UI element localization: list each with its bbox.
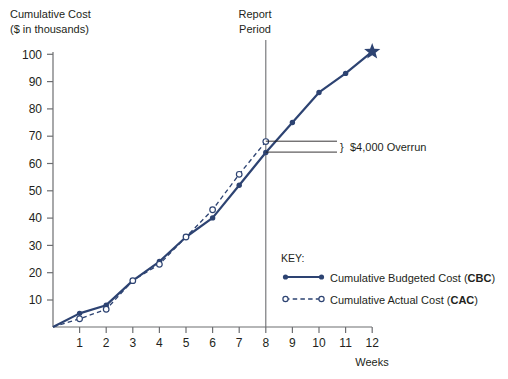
x-tick-10: 10: [312, 336, 326, 350]
overrun-annotation: } $4,000 Overrun: [266, 141, 427, 153]
legend-label-cac-tail: ): [474, 294, 478, 306]
data-point: [183, 234, 189, 240]
x-axis-tick-labels: 1 2 3 4 5 6 7 8 9 10 11 12: [76, 336, 379, 350]
x-axis-name: Weeks: [355, 356, 389, 368]
legend-label-cbc-abbr: CBC: [468, 272, 492, 284]
series-cac: [53, 139, 269, 327]
y-tick-90: 90: [29, 75, 43, 89]
legend: KEY: Cumulative Budgeted Cost (CBC) Cumu…: [281, 252, 495, 306]
series-layer: [53, 43, 380, 327]
legend-marker-cac-end: [319, 296, 324, 301]
x-tick-11: 11: [339, 336, 352, 350]
y-tick-60: 60: [29, 157, 43, 171]
y-axis-title-line2: ($ in thousands): [10, 23, 89, 35]
y-tick-50: 50: [29, 184, 43, 198]
data-point: [77, 316, 83, 322]
x-axis-ticks: [80, 327, 373, 333]
data-point: [237, 183, 242, 188]
legend-marker-cac-start: [283, 296, 288, 301]
x-tick-3: 3: [129, 336, 136, 350]
series-line-cbc: [53, 52, 372, 327]
y-tick-10: 10: [29, 293, 43, 307]
x-tick-6: 6: [209, 336, 216, 350]
legend-title: KEY:: [281, 252, 304, 264]
y-tick-20: 20: [29, 266, 43, 280]
x-tick-9: 9: [289, 336, 296, 350]
data-point: [157, 261, 163, 267]
y-tick-70: 70: [29, 129, 43, 143]
report-period-label-line2: Period: [239, 23, 271, 35]
y-tick-40: 40: [29, 211, 43, 225]
x-tick-2: 2: [103, 336, 110, 350]
legend-label-cac: Cumulative Actual Cost (CAC): [330, 294, 478, 306]
overrun-brace: }: [340, 141, 344, 153]
overrun-label: $4,000 Overrun: [350, 141, 426, 153]
data-point: [210, 215, 215, 220]
data-point: [236, 171, 242, 177]
series-cbc: [53, 43, 380, 327]
data-point: [130, 278, 136, 284]
y-axis-title-line1: Cumulative Cost: [10, 8, 91, 20]
x-tick-4: 4: [156, 336, 163, 350]
data-point: [316, 90, 321, 95]
data-point: [77, 311, 82, 316]
data-point: [103, 306, 109, 312]
legend-item-cbc[interactable]: Cumulative Budgeted Cost (CBC): [283, 272, 495, 284]
x-tick-7: 7: [236, 336, 243, 350]
legend-marker-cbc-end: [319, 274, 324, 279]
legend-label-cac-text: Cumulative Actual Cost (: [330, 294, 451, 306]
legend-label-cbc-text: Cumulative Budgeted Cost (: [330, 272, 468, 284]
y-tick-80: 80: [29, 102, 43, 116]
legend-label-cbc-tail: ): [491, 272, 495, 284]
series-line-cac: [53, 142, 266, 327]
legend-item-cac[interactable]: Cumulative Actual Cost (CAC): [283, 294, 478, 306]
x-tick-8: 8: [262, 336, 269, 350]
data-point: [290, 120, 295, 125]
x-tick-12: 12: [366, 336, 380, 350]
y-tick-100: 100: [22, 48, 42, 62]
legend-label-cac-abbr: CAC: [450, 294, 474, 306]
legend-marker-cbc-start: [283, 274, 288, 279]
y-tick-30: 30: [29, 239, 43, 253]
y-axis-ticks: [47, 54, 53, 300]
report-period-label-line1: Report: [238, 8, 271, 20]
x-tick-1: 1: [76, 336, 83, 350]
y-axis-tick-labels: 100 90 80 70 60 50 40 30 20 10: [22, 48, 42, 308]
legend-label-cbc: Cumulative Budgeted Cost (CBC): [330, 272, 495, 284]
cumulative-cost-chart: Cumulative Cost ($ in thousands) Report …: [0, 0, 508, 379]
chart-svg: Cumulative Cost ($ in thousands) Report …: [0, 0, 508, 379]
data-point: [210, 207, 216, 213]
data-point: [343, 71, 348, 76]
x-tick-5: 5: [183, 336, 190, 350]
